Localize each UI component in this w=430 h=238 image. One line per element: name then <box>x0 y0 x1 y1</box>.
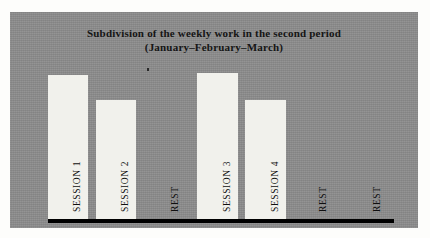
rest-label-1: REST <box>170 186 180 212</box>
bar-label-session-1: SESSION 1 <box>72 161 82 212</box>
bar-session-1 <box>48 75 88 219</box>
chart-title-line1: Subdivision of the weekly work in the se… <box>87 27 341 39</box>
bar-session-2 <box>96 100 136 219</box>
axis-baseline <box>48 219 394 223</box>
bar-label-session-2: SESSION 2 <box>120 161 130 212</box>
chart-page: Subdivision of the weekly work in the se… <box>0 0 430 238</box>
scan-speck-artifact <box>147 68 149 71</box>
rest-label-3: REST <box>372 186 382 212</box>
bar-label-session-4: SESSION 4 <box>270 161 280 212</box>
chart-title-line2: (January–February–March) <box>10 40 418 54</box>
chart-panel: Subdivision of the weekly work in the se… <box>10 12 418 228</box>
rest-label-2: REST <box>318 186 328 212</box>
bar-label-session-3: SESSION 3 <box>222 161 232 212</box>
chart-title: Subdivision of the weekly work in the se… <box>10 26 418 54</box>
